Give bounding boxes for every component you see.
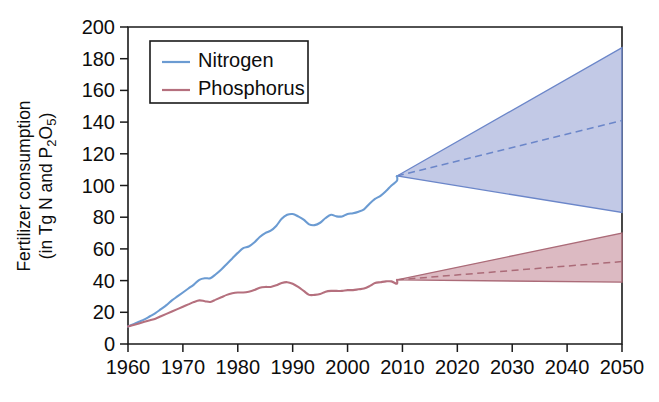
legend-label-phosphorus: Phosphorus [198,77,305,99]
y-axis-title: Fertilizer consumption (in Tg N and P2O5… [14,100,59,271]
y-tick-label: 180 [82,48,115,70]
x-tick-label: 2010 [380,356,425,378]
x-tick-label: 2020 [435,356,480,378]
x-tick-label: 2040 [545,356,590,378]
y-tick-label: 140 [82,111,115,133]
projection-band-phosphorus [397,233,622,282]
x-tick-label: 2000 [325,356,370,378]
x-axis-ticks: 1960197019801990200020102020203020402050 [106,344,645,378]
y-tick-label: 160 [82,79,115,101]
x-tick-label: 2050 [600,356,645,378]
y-axis-ticks: 020406080100120140160180200 [82,16,128,355]
chart-legend: NitrogenPhosphorus [150,41,308,103]
y-tick-label: 120 [82,143,115,165]
y-axis-title-line1: Fertilizer consumption [14,100,34,271]
x-tick-label: 1980 [216,356,261,378]
y-tick-label: 60 [93,238,115,260]
historical-line-nitrogen [128,176,397,327]
y-tick-label: 200 [82,16,115,38]
x-tick-label: 1990 [270,356,315,378]
y-axis-title-line2: (in Tg N and P2O5) [36,113,59,259]
chart-canvas: Fertilizer consumption (in Tg N and P2O5… [0,0,659,402]
y-tick-label: 20 [93,301,115,323]
y-tick-label: 100 [82,175,115,197]
y-tick-label: 0 [104,333,115,355]
legend-label-nitrogen: Nitrogen [198,49,274,71]
x-tick-label: 1960 [106,356,151,378]
fertilizer-consumption-chart: Fertilizer consumption (in Tg N and P2O5… [0,0,659,402]
y-tick-label: 40 [93,270,115,292]
y-tick-label: 80 [93,206,115,228]
x-tick-label: 2030 [490,356,535,378]
x-tick-label: 1970 [161,356,206,378]
projection-band-nitrogen [397,48,622,213]
